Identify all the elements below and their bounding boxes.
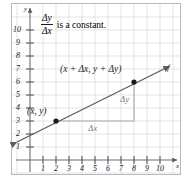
linear-function-slope-figure: 1 2 3 4 5 6 7 8 9 10 1 2 3 4 5 6 7 8 9 1… [0,0,189,183]
fraction-denominator: Δx [41,26,53,37]
point-label-xy-delta: (x + Δx, y + Δy) [60,65,121,75]
data-point-xy-delta [131,79,136,84]
y-tick-10: 10 [13,26,21,34]
x-tick-9: 9 [145,165,149,173]
function-label-f: f [167,63,170,72]
y-tick-9: 9 [16,39,20,47]
delta-y-label: Δy [120,95,129,104]
x-axis-label: x [176,163,179,170]
y-tick-4: 4 [16,104,20,112]
y-tick-3: 3 [16,117,20,125]
slope-constant-annotation: Δy Δx is a constant. [41,13,106,37]
y-tick-7: 7 [16,65,20,73]
y-tick-1: 1 [16,143,20,151]
x-tick-8: 8 [132,165,136,173]
data-point-xy [53,118,58,123]
x-tick-3: 3 [67,165,71,173]
x-tick-5: 5 [93,165,97,173]
x-tick-2: 2 [54,165,58,173]
y-tick-2: 2 [16,130,20,138]
x-tick-1: 1 [41,165,45,173]
y-tick-8: 8 [16,52,20,60]
x-tick-6: 6 [106,165,110,173]
point-label-xy: (x, y) [27,107,47,117]
y-tick-5: 5 [16,91,20,99]
delta-x-label: Δx [88,124,97,133]
y-axis-label: y [24,6,27,13]
grid-lines-horizontal [12,17,180,173]
x-tick-7: 7 [119,165,123,173]
fraction-numerator: Δy [41,13,53,24]
x-tick-10: 10 [156,165,164,173]
annotation-text: is a constant. [57,20,106,30]
x-tick-4: 4 [80,165,84,173]
y-tick-6: 6 [16,78,20,86]
delta-ratio-fraction: Δy Δx [41,13,53,37]
